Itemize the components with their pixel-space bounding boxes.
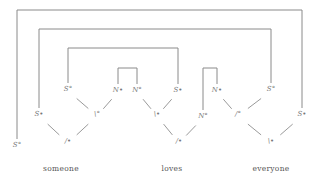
formula-node-label: N•: [211, 86, 222, 94]
formula-node-label: N°: [131, 86, 142, 94]
tree-link: [248, 124, 261, 135]
tree-link: [163, 99, 171, 109]
formula-node-label: S°: [64, 85, 72, 93]
tree-link: [186, 126, 196, 136]
tree-link: [48, 124, 60, 135]
formula-node-label: \•: [268, 137, 275, 145]
formula-node-label: S°: [13, 141, 21, 149]
word-everyone: everyone: [252, 164, 289, 173]
formula-node-label: \•: [154, 110, 161, 118]
formula-node-label: N•: [112, 86, 123, 94]
tree-link: [103, 99, 111, 109]
tree-link: [143, 99, 151, 109]
tree-link: [77, 99, 89, 109]
word-loves: loves: [162, 164, 183, 173]
formula-node-label: S•: [35, 110, 44, 118]
axiom-link: [118, 68, 137, 84]
formula-node-label: /°: [234, 110, 241, 118]
formula-node-label: /•: [175, 137, 183, 145]
axiom-links: [17, 10, 302, 139]
formula-node-label: N°: [197, 112, 208, 120]
tree-link: [77, 124, 89, 135]
tree-link: [280, 124, 292, 135]
formula-node-label: S•: [174, 86, 183, 94]
tree-link: [248, 99, 261, 109]
formula-nodes: S°S•S°/•\°N•N°S•\•/•N°N•/°S°\•S•: [13, 85, 307, 149]
formula-node-label: S°: [267, 85, 275, 93]
proof-net-diagram: S°S•S°/•\°N•N°S•\•/•N°N•/°S°\•S• someone…: [0, 0, 324, 181]
axiom-link: [39, 29, 271, 108]
tree-link: [223, 99, 231, 109]
axiom-link: [68, 48, 178, 84]
word-someone: someone: [43, 164, 79, 173]
lexical-words: someoneloveseveryone: [43, 164, 290, 173]
formula-node-label: /•: [64, 137, 72, 145]
tree-link: [164, 124, 173, 135]
formula-node-label: S•: [298, 110, 307, 118]
formula-node-label: \°: [94, 110, 100, 118]
tree-links: [48, 99, 293, 136]
